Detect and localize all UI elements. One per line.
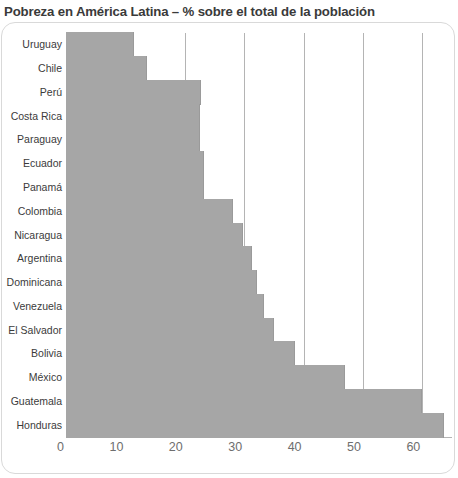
bar-row <box>66 151 204 176</box>
bar-row <box>66 223 243 248</box>
tick-label-50: 50 <box>337 440 361 454</box>
category-label: Paraguay <box>0 127 62 152</box>
category-label: El Salvador <box>0 318 62 343</box>
category-label: Uruguay <box>0 32 62 57</box>
bar-row <box>66 199 233 224</box>
bar-row <box>66 365 345 390</box>
bar <box>66 223 243 248</box>
category-label: Guatemala <box>0 389 62 414</box>
tick-label-0: 0 <box>52 440 64 454</box>
tick-label-30: 30 <box>218 440 242 454</box>
bar-row <box>66 56 147 81</box>
bar <box>66 389 422 414</box>
bar <box>66 175 204 200</box>
category-label: Panamá <box>0 175 62 200</box>
bar-row <box>66 270 257 295</box>
category-label: Nicaragua <box>0 223 62 248</box>
bar <box>66 413 444 438</box>
bar <box>66 246 252 271</box>
bar <box>66 104 200 129</box>
tick-label-10: 10 <box>99 440 123 454</box>
bar <box>66 199 233 224</box>
bar-row <box>66 104 200 129</box>
bar-row <box>66 246 252 271</box>
bar <box>66 127 200 152</box>
category-label: Dominicana <box>0 270 62 295</box>
tick-label-60: 60 <box>396 440 420 454</box>
category-label: Ecuador <box>0 151 62 176</box>
tick-label-40: 40 <box>278 440 302 454</box>
x-tick-labels: 0102030405060 <box>0 440 458 466</box>
category-label: México <box>0 365 62 390</box>
bar <box>66 341 295 366</box>
bar <box>66 365 345 390</box>
category-label: Perú <box>0 80 62 105</box>
bar-row <box>66 318 274 343</box>
bar <box>66 32 134 57</box>
category-labels: UruguayChilePerúCosta RicaParaguayEcuado… <box>0 33 62 437</box>
bar-row <box>66 32 134 57</box>
bar <box>66 80 201 105</box>
bar <box>66 294 264 319</box>
category-label: Argentina <box>0 246 62 271</box>
bar-row <box>66 341 295 366</box>
bar-row <box>66 413 444 438</box>
category-label: Costa Rica <box>0 104 62 129</box>
tick-label-20: 20 <box>159 440 183 454</box>
chart-title: Pobreza en América Latina – % sobre el t… <box>4 4 454 20</box>
bar-row <box>66 389 422 414</box>
category-label: Honduras <box>0 413 62 438</box>
bar-row <box>66 127 200 152</box>
category-label: Colombia <box>0 199 62 224</box>
bar <box>66 151 204 176</box>
category-label: Venezuela <box>0 294 62 319</box>
poverty-bar-chart: Pobreza en América Latina – % sobre el t… <box>0 0 458 478</box>
bar-row <box>66 80 201 105</box>
bar <box>66 270 257 295</box>
bar <box>66 318 274 343</box>
bar <box>66 56 147 81</box>
bars-layer <box>66 33 452 437</box>
bar-row <box>66 294 264 319</box>
category-label: Bolivia <box>0 341 62 366</box>
bar-row <box>66 175 204 200</box>
category-label: Chile <box>0 56 62 81</box>
